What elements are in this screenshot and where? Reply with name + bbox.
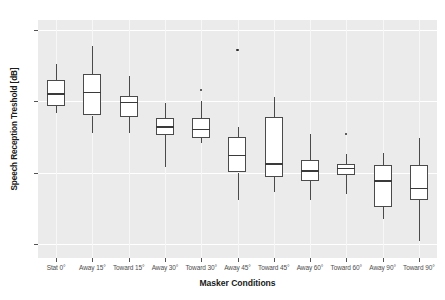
median-line (156, 126, 174, 127)
x-tick-label-2: Toward 15° (113, 264, 145, 271)
box-iqr (265, 117, 283, 177)
x-tick-mark-2 (129, 258, 130, 262)
whisker-upper (346, 154, 347, 164)
whisker-lower (238, 173, 239, 200)
whisker-lower (383, 207, 384, 220)
boxplot-series (38, 20, 437, 258)
whisker-lower (274, 177, 275, 193)
whisker-lower (129, 117, 130, 133)
box-iqr (120, 96, 138, 117)
x-tick-mark-3 (165, 258, 166, 262)
outlier-point (345, 133, 347, 135)
y-axis-title: Speech Reception Treshold [dB] (10, 10, 24, 248)
x-tick-label-8: Toward 60° (331, 264, 363, 271)
whisker-upper (92, 46, 93, 75)
outlier-point (236, 49, 238, 51)
x-tick-mark-7 (310, 258, 311, 262)
median-line (120, 102, 138, 103)
median-line (47, 93, 65, 94)
whisker-lower (56, 106, 57, 113)
whisker-lower (419, 200, 420, 241)
median-line (83, 92, 101, 93)
x-tick-mark-9 (383, 258, 384, 262)
x-tick-mark-0 (56, 258, 57, 262)
whisker-upper (274, 97, 275, 117)
whisker-upper (129, 76, 130, 96)
boxplot-figure: Speech Reception Treshold [dB] -10-15-20… (0, 0, 445, 300)
y-tick-mark-1 (34, 101, 38, 102)
whisker-lower (310, 181, 311, 200)
x-tick-label-0: Stat 0° (47, 264, 66, 271)
median-line (374, 180, 392, 181)
x-axis-title: Masker Conditions (38, 278, 437, 288)
x-tick-mark-4 (201, 258, 202, 262)
y-tick-mark-0 (34, 30, 38, 31)
x-tick-mark-5 (238, 258, 239, 262)
x-tick-label-3: Away 30° (152, 264, 179, 271)
plot-panel (38, 20, 437, 258)
box-iqr (410, 165, 428, 199)
box-iqr (83, 74, 101, 115)
whisker-upper (310, 134, 311, 160)
median-line (265, 163, 283, 164)
whisker-lower (346, 175, 347, 194)
median-line (228, 155, 246, 156)
median-line (410, 188, 428, 189)
whisker-lower (201, 138, 202, 142)
whisker-upper (383, 153, 384, 166)
box-iqr (374, 165, 392, 206)
median-line (337, 168, 355, 169)
y-tick-mark-3 (34, 244, 38, 245)
box-iqr (337, 164, 355, 175)
whisker-upper (165, 103, 166, 119)
median-line (192, 129, 210, 130)
y-tick-mark-2 (34, 173, 38, 174)
outlier-point (200, 89, 202, 91)
x-tick-mark-6 (274, 258, 275, 262)
whisker-lower (165, 135, 166, 166)
whisker-upper (201, 101, 202, 118)
x-tick-label-7: Away 60° (297, 264, 324, 271)
x-tick-label-5: Away 45° (224, 264, 251, 271)
x-tick-mark-1 (92, 258, 93, 262)
whisker-upper (56, 64, 57, 80)
x-tick-label-9: Away 90° (369, 264, 396, 271)
median-line (301, 170, 319, 171)
x-tick-mark-10 (419, 258, 420, 262)
x-tick-label-6: Toward 45° (258, 264, 290, 271)
whisker-lower (92, 116, 93, 133)
whisker-upper (419, 138, 420, 165)
whisker-upper (238, 127, 239, 137)
x-tick-label-4: Toward 30° (185, 264, 217, 271)
x-tick-label-1: Away 15° (79, 264, 106, 271)
x-tick-label-10: Toward 90° (403, 264, 435, 271)
x-tick-mark-8 (346, 258, 347, 262)
